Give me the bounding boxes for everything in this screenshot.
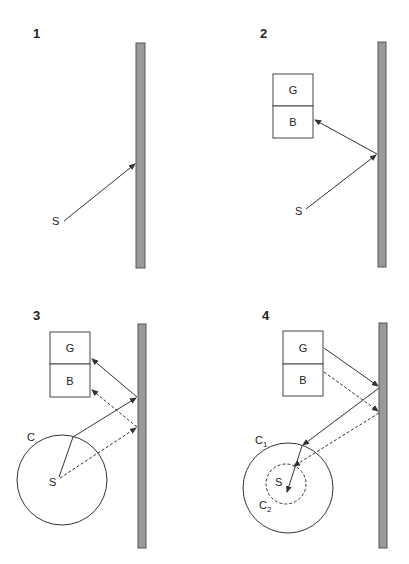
box-b-label: B — [289, 116, 296, 128]
panel-number: 1 — [33, 26, 40, 41]
inner-circle-label: C2 — [259, 499, 272, 514]
solid-inner-ray-arrow — [287, 446, 302, 492]
solid-reflected-ray-arrow — [303, 388, 379, 445]
panel-3: 3 G B C S — [17, 308, 146, 548]
wall — [379, 323, 387, 548]
incident-ray-arrow — [64, 164, 135, 221]
diagram-canvas: 1 S 2 G B S 3 G B C S 4 G B — [0, 0, 409, 564]
panel-2: 2 G B S — [260, 26, 386, 267]
box-g-label: G — [289, 84, 298, 96]
wall — [138, 324, 146, 548]
panel-4: 4 G B S C1 C2 — [243, 308, 387, 548]
source-label: S — [49, 476, 56, 488]
dashed-reflected-ray-arrow — [294, 413, 379, 466]
panel-number: 4 — [262, 308, 270, 323]
dashed-emitted-ray-arrow — [324, 372, 378, 411]
source-label: S — [295, 205, 302, 217]
box-b-label: B — [66, 375, 73, 387]
box-g-label: G — [299, 342, 308, 354]
panel-number: 2 — [260, 26, 267, 41]
wall — [378, 42, 386, 267]
reflected-ray-arrow — [315, 120, 377, 154]
box-g-label: G — [66, 342, 75, 354]
solid-reflected-ray-arrow — [92, 359, 137, 397]
solid-emitted-ray-arrow — [324, 348, 378, 386]
panel-1: 1 S — [33, 26, 145, 268]
circle-c — [17, 435, 107, 525]
inner-circle-c2 — [266, 464, 306, 504]
wall — [136, 43, 145, 268]
panel-number: 3 — [33, 308, 40, 323]
box-b-label: B — [299, 374, 306, 386]
outer-circle-label: C1 — [255, 434, 268, 449]
solid-incident-ray-arrow — [59, 398, 136, 477]
source-label: S — [275, 476, 282, 488]
incident-ray-arrow — [306, 155, 376, 209]
circle-label: C — [27, 431, 35, 443]
source-label: S — [52, 215, 59, 227]
